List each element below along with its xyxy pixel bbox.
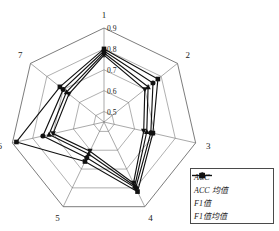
chart-legend: ACC ACC 均值 F1值 F1值均值 — [190, 168, 274, 224]
svg-text:0.8: 0.8 — [107, 45, 117, 54]
radial-tick-labels: 0.90.80.70.60.5 — [107, 24, 117, 117]
svg-text:2: 2 — [185, 50, 190, 60]
legend-label: F1值 — [194, 197, 211, 210]
radar-chart-figure: 0.90.80.70.60.5 1234567 ACC ACC 均值 F1值 — [0, 0, 279, 231]
vertex-labels: 1234567 — [0, 10, 211, 223]
svg-text:0.9: 0.9 — [107, 24, 117, 33]
svg-text:3: 3 — [206, 141, 211, 151]
legend-label: F1值均值 — [194, 210, 227, 223]
svg-text:0.6: 0.6 — [107, 87, 117, 96]
radar-series — [14, 47, 160, 194]
legend-item: F1值 — [194, 197, 270, 210]
triangle-down-marker-icon — [191, 169, 213, 182]
svg-text:0.7: 0.7 — [107, 66, 117, 75]
legend-label: ACC 均值 — [194, 184, 228, 197]
legend-item: F1值均值 — [194, 210, 270, 223]
svg-text:1: 1 — [102, 10, 107, 20]
svg-text:6: 6 — [0, 141, 2, 151]
svg-text:5: 5 — [55, 213, 60, 223]
legend-item: ACC 均值 — [194, 184, 270, 197]
svg-text:7: 7 — [18, 50, 23, 60]
svg-text:0.5: 0.5 — [107, 108, 117, 117]
svg-text:4: 4 — [148, 213, 153, 223]
